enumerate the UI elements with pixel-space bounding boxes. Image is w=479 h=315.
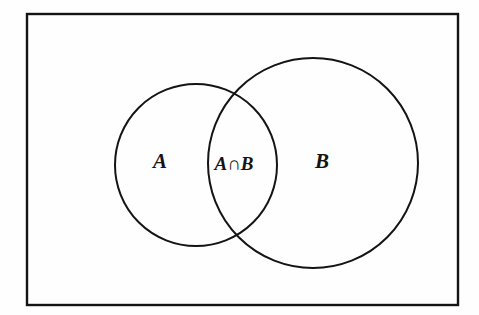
intersection-label: A∩B [213, 153, 253, 174]
set-b-label: B [314, 149, 329, 173]
set-a-label: A [151, 149, 167, 173]
venn-diagram-canvas: A A∩B B [0, 0, 479, 315]
venn-diagram-figure: A A∩B B [0, 0, 479, 315]
